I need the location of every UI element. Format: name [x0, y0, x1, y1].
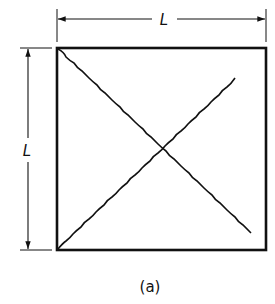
- figure-caption: (a): [140, 278, 161, 296]
- left-dimension-label: L: [23, 142, 31, 160]
- top-dimension-label: L: [160, 11, 168, 29]
- diagonal-wavy-tl-br: [58, 49, 251, 233]
- diagonal-wavy-bl-tr: [58, 78, 235, 249]
- diagram-canvas: L L (a): [0, 0, 275, 304]
